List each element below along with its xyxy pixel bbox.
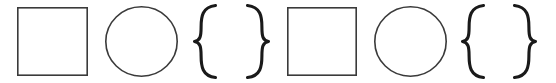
square-icon bbox=[17, 7, 88, 76]
right-curly-brace-icon bbox=[514, 5, 536, 78]
glyph-square-2 bbox=[287, 7, 357, 76]
left-brace-path bbox=[195, 6, 216, 78]
right-curly-brace-icon bbox=[247, 5, 269, 78]
glyph-right-brace-2 bbox=[514, 5, 536, 78]
left-curly-brace-icon bbox=[462, 5, 484, 78]
shape-glyph-canvas bbox=[0, 0, 556, 83]
square-outline bbox=[18, 8, 87, 75]
circle-outline bbox=[106, 7, 177, 76]
glyph-circle-1 bbox=[105, 6, 178, 77]
square-outline bbox=[288, 8, 356, 75]
glyph-left-brace-1 bbox=[194, 5, 216, 78]
circle-icon bbox=[105, 6, 178, 77]
square-icon bbox=[287, 7, 357, 76]
glyph-square-1 bbox=[17, 7, 88, 76]
glyph-left-brace-2 bbox=[462, 5, 484, 78]
circle-outline bbox=[375, 7, 446, 76]
right-brace-path bbox=[515, 6, 536, 78]
left-curly-brace-icon bbox=[194, 5, 216, 78]
left-brace-path bbox=[463, 6, 484, 78]
glyph-circle-2 bbox=[374, 6, 447, 77]
glyph-right-brace-1 bbox=[247, 5, 269, 78]
right-brace-path bbox=[248, 6, 269, 78]
circle-icon bbox=[374, 6, 447, 77]
